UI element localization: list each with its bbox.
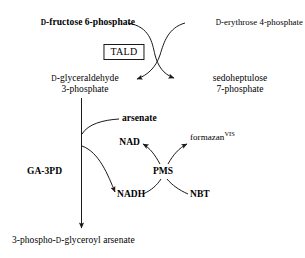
label-nbt: NBT — [190, 189, 210, 200]
label-nad: NAD — [119, 137, 140, 148]
arrow-nadh-to-pms — [143, 179, 161, 194]
label-erythrose-4-phosphate: D-erythrose 4-phosphate — [216, 17, 303, 29]
stereo-prefix-d: D — [216, 18, 221, 27]
label-sedoheptulose-7-phosphate: sedoheptulose 7-phosphate — [213, 73, 267, 95]
stereo-prefix-d: D — [51, 74, 56, 83]
label-pms: PMS — [153, 166, 173, 177]
arrow-nbt-to-pms — [167, 179, 188, 194]
label-glyceraldehyde-3-phosphate: D-glyceraldehyde 3-phosphate — [51, 73, 118, 95]
arrow-pms-to-nad — [143, 144, 160, 164]
label-arsenate: arsenate — [122, 113, 157, 124]
stereo-prefix-d: D — [41, 18, 46, 27]
label-ga3pd-enzyme: GA-3PD — [27, 166, 62, 177]
label-3-phospho-d-glyceroyl-arsenate: 3-phospho-D-glyceroyl arsenate — [12, 235, 135, 247]
label-nadh: NADH — [117, 189, 145, 200]
arrow-arsenate-in — [82, 119, 119, 134]
arrow-pms-to-formazan — [168, 144, 187, 164]
formazan-superscript-vis: VIS — [224, 130, 234, 137]
stereo-prefix-d: D — [56, 236, 61, 245]
enzyme-tald-box: TALD — [103, 44, 144, 60]
arrow-nadh-out — [82, 146, 115, 192]
label-fructose-6-phosphate: D-fructose 6-phosphate — [41, 17, 135, 29]
pathway-diagram-canvas — [0, 0, 305, 258]
label-formazan: formazanVIS — [190, 132, 235, 143]
